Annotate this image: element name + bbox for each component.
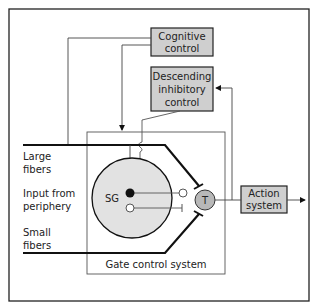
- t-label: T: [201, 195, 209, 206]
- feedback-to-descending-arrow: [216, 88, 232, 200]
- gate-control-diagram: Cognitive control Descending inhibitory …: [0, 0, 317, 305]
- periphery-label-2: periphery: [23, 201, 71, 212]
- descending-label-2: inhibitory: [158, 84, 206, 95]
- large-fibers-label-1: Large: [23, 151, 51, 162]
- small-fibers-label-2: fibers: [23, 240, 51, 251]
- sg-label: SG: [105, 193, 119, 204]
- sg-white-dot: [126, 204, 134, 212]
- large-fibers-label-2: fibers: [23, 164, 51, 175]
- cognitive-to-fibers-line: [68, 38, 151, 145]
- descending-label-3: control: [165, 97, 200, 108]
- cognitive-to-gate-arrow: [122, 45, 151, 130]
- periphery-label-1: Input from: [23, 188, 75, 199]
- descending-control-box: Descending inhibitory control: [151, 67, 213, 111]
- excitatory-terminal: [179, 189, 187, 197]
- cognitive-label-2: control: [165, 43, 200, 54]
- descending-label-1: Descending: [153, 71, 212, 82]
- gate-control-label: Gate control system: [105, 259, 206, 270]
- sg-circle: [92, 158, 172, 238]
- action-label-1: Action: [248, 188, 279, 199]
- cognitive-control-box: Cognitive control: [151, 28, 213, 56]
- small-fibers-label-1: Small: [23, 227, 51, 238]
- action-system-box: Action system: [241, 186, 287, 213]
- action-label-2: system: [246, 200, 282, 211]
- sg-black-dot: [126, 189, 135, 198]
- cognitive-label-1: Cognitive: [158, 31, 205, 42]
